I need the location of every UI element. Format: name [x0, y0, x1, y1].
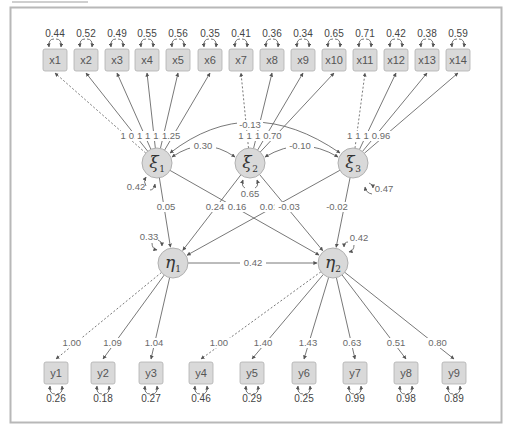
error-variance-x6-right-arrow: [211, 39, 216, 47]
loading-label-y3: 1.04: [145, 337, 164, 348]
path-label-xi2-eta2: -0.03: [278, 201, 300, 212]
error-variance-x8-left-arrow: [266, 39, 271, 47]
error-variance-x4-right-arrow: [148, 39, 153, 47]
residual-eta2-arrow-b: [349, 245, 354, 252]
error-variance-x3-left-arrow: [111, 39, 116, 47]
error-variance-label-x2: 0.52: [76, 28, 96, 39]
observed-label-x3: x3: [111, 54, 123, 66]
error-variance-label-x5: 0.56: [168, 28, 188, 39]
loading-label-y1: 1.00: [63, 337, 82, 348]
loading-x1: [55, 73, 146, 153]
observed-label-y6: y6: [298, 367, 310, 379]
observed-label-x6: x6: [204, 54, 216, 66]
error-variance-x7-right-arrow: [242, 39, 247, 47]
covariance-label-xi1-xi2: 0.30: [194, 140, 213, 151]
observed-label-x7: x7: [235, 54, 247, 66]
observed-label-x10: x10: [325, 54, 343, 66]
error-variance-label-x4: 0.55: [137, 28, 157, 39]
observed-label-x12: x12: [387, 54, 405, 66]
error-variance-label-x13: 0.38: [417, 28, 437, 39]
observed-label-x13: x13: [418, 54, 436, 66]
path-label-xi2-eta1: 0.24: [206, 201, 225, 212]
error-variance-x2-right-arrow: [87, 39, 92, 47]
variance-label-xi2: 0.65: [241, 188, 260, 199]
observed-label-x9: x9: [297, 54, 309, 66]
variance-xi3-arrow-a: [369, 183, 373, 188]
error-variance-x13-right-arrow: [428, 39, 433, 47]
observed-label-y4: y4: [195, 367, 207, 379]
sem-diagram: x1x2x3x4x5x6x7x8x9x10x11x12x13x14y1y2y3y…: [0, 0, 505, 431]
error-variance-label-x1: 0.44: [45, 28, 65, 39]
observed-label-x14: x14: [449, 54, 467, 66]
error-variance-label-y8: 0.98: [396, 393, 416, 404]
error-variance-label-y7: 0.99: [345, 393, 365, 404]
error-variance-label-x7: 0.41: [231, 28, 251, 39]
error-variance-x11-left-arrow: [359, 39, 364, 47]
error-variance-x13-left-arrow: [421, 39, 426, 47]
residual-label-eta1: 0.33: [140, 231, 159, 242]
latent-xi3-subscript: 3: [355, 164, 361, 174]
error-variance-label-x11: 0.71: [355, 28, 375, 39]
loading-label-x6: 1.25: [162, 130, 181, 141]
covariance-label-xi1-xi3: -0.13: [239, 119, 261, 130]
latent-xi1-subscript: 1: [159, 164, 165, 174]
observed-label-x4: x4: [141, 54, 153, 66]
labels-layer: 1.000.781.071.251.321.251.001.001.040.70…: [45, 28, 468, 404]
latent-eta1-subscript: 1: [175, 264, 181, 274]
error-variance-x12-left-arrow: [390, 39, 395, 47]
path-label-xi1-eta2: 0.16: [228, 201, 247, 212]
error-variance-x14-right-arrow: [459, 39, 464, 47]
error-variance-label-x3: 0.49: [107, 28, 127, 39]
error-variance-x10-left-arrow: [328, 39, 333, 47]
error-variance-x9-left-arrow: [297, 39, 302, 47]
error-variance-x8-right-arrow: [273, 39, 278, 47]
path-xi3-eta1: [187, 170, 340, 255]
error-variance-label-y5: 0.29: [242, 393, 262, 404]
residual-eta1-arrow-b: [152, 243, 157, 250]
path-xi3-eta2: [336, 178, 350, 248]
error-variance-x5-right-arrow: [179, 39, 184, 47]
error-variance-label-x12: 0.42: [386, 28, 406, 39]
path-xi1-eta2: [170, 170, 319, 255]
error-variance-x14-left-arrow: [452, 39, 457, 47]
path-label-eta1-eta2: 0.42: [244, 257, 263, 268]
latent-eta2-subscript: 2: [335, 264, 341, 274]
error-variance-x7-left-arrow: [235, 39, 240, 47]
residual-eta1-arrow-a: [158, 240, 162, 246]
error-variance-x11-right-arrow: [366, 39, 371, 47]
path-label-xi3-eta2: -0.02: [326, 201, 348, 212]
variance-xi2-arrow-b: [255, 180, 258, 188]
path-label-xi1-eta1: 0.05: [157, 201, 176, 212]
error-variance-label-x9: 0.34: [293, 28, 313, 39]
error-variance-x9-right-arrow: [304, 39, 309, 47]
error-variance-label-y9: 0.89: [444, 393, 464, 404]
path-xi1-eta1: [159, 178, 170, 247]
loading-label-y9: 0.80: [428, 337, 447, 348]
latent-xi2-subscript: 2: [252, 164, 258, 174]
variance-label-xi3: 0.47: [375, 183, 394, 194]
error-variance-label-y1: 0.26: [46, 393, 66, 404]
error-variance-label-y6: 0.25: [294, 393, 314, 404]
variance-xi2-arrow-a: [242, 180, 245, 188]
loading-label-x10: 0.70: [263, 130, 282, 141]
variance-xi3-arrow-b: [365, 187, 372, 194]
loading-x14: [364, 73, 458, 153]
loading-label-y2: 1.09: [103, 337, 122, 348]
observed-label-y3: y3: [145, 367, 157, 379]
variance-xi1-arrow-b: [150, 184, 155, 190]
error-variance-label-y3: 0.27: [141, 393, 161, 404]
loading-label-y5: 1.40: [254, 337, 273, 348]
error-variance-label-x8: 0.36: [262, 28, 282, 39]
loading-label-y6: 1.43: [299, 337, 318, 348]
error-variance-x6-left-arrow: [204, 39, 209, 47]
observed-label-y8: y8: [400, 367, 412, 379]
loading-label-y7: 0.63: [343, 337, 362, 348]
error-variance-x10-right-arrow: [335, 39, 340, 47]
observed-label-x11: x11: [357, 54, 374, 66]
error-variance-x3-right-arrow: [118, 39, 123, 47]
error-variance-label-x6: 0.35: [200, 28, 220, 39]
residual-label-eta2: 0.42: [350, 232, 369, 243]
loading-label-y8: 0.51: [387, 337, 406, 348]
covariance-label-xi2-xi3: -0.10: [289, 140, 311, 151]
error-variance-x5-left-arrow: [172, 39, 177, 47]
